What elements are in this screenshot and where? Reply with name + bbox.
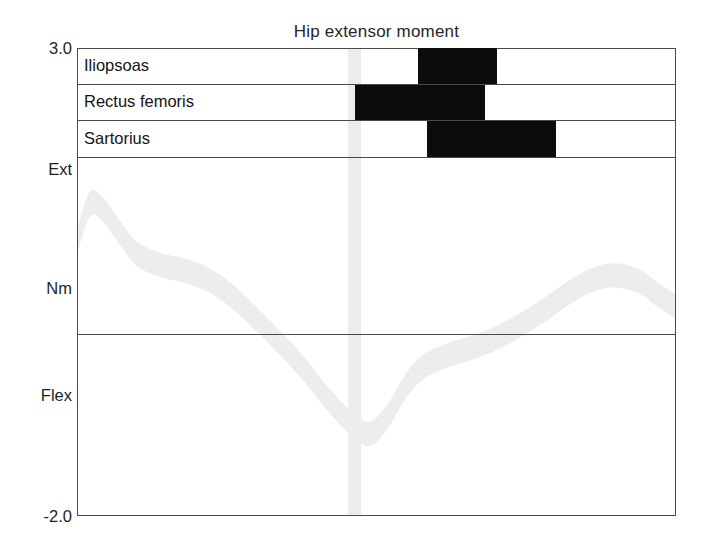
emg-row-sartorius: Sartorius xyxy=(77,121,676,158)
emg-row-iliopsoas: Iliopsoas xyxy=(77,48,676,85)
emg-bar-rectus-femoris xyxy=(355,85,485,122)
emg-activation-block: Iliopsoas Rectus femoris Sartorius xyxy=(77,48,676,158)
emg-label-rectus-femoris: Rectus femoris xyxy=(84,93,194,112)
chart-figure: Hip extensor moment 3.0 Ext Nm Flex -2.0… xyxy=(0,0,702,549)
y-label-flex: Flex xyxy=(41,386,72,405)
emg-bar-sartorius xyxy=(427,121,556,158)
y-tick-top: 3.0 xyxy=(49,39,72,58)
y-label-unit: Nm xyxy=(46,279,72,298)
y-tick-bottom: -2.0 xyxy=(44,507,72,526)
chart-title: Hip extensor moment xyxy=(77,22,676,42)
y-axis-labels: 3.0 Ext Nm Flex -2.0 xyxy=(0,0,72,549)
emg-label-sartorius: Sartorius xyxy=(84,129,150,148)
emg-label-iliopsoas: Iliopsoas xyxy=(84,56,149,75)
emg-bar-iliopsoas xyxy=(418,48,496,85)
emg-row-rectus-femoris: Rectus femoris xyxy=(77,85,676,122)
y-label-ext: Ext xyxy=(48,160,72,179)
